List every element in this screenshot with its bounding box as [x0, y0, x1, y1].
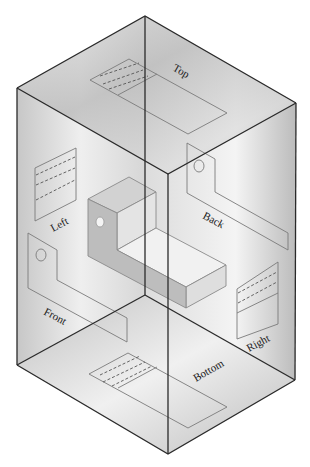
hole-icon	[96, 217, 104, 227]
glass-box-diagram: Top Left Back Right Bottom Front	[0, 0, 310, 467]
